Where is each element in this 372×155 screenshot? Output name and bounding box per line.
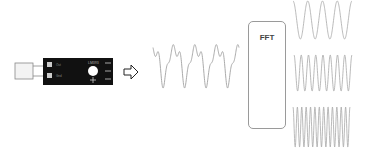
fft-block: FFT bbox=[248, 21, 286, 129]
mid-frequency-wave bbox=[294, 55, 352, 91]
svg-text:Out: Out bbox=[56, 63, 61, 67]
fft-label: FFT bbox=[249, 33, 285, 42]
svg-text:Gnd: Gnd bbox=[56, 74, 62, 78]
high-frequency-wave bbox=[293, 107, 350, 147]
sensor-board: Out Gnd LM393 bbox=[43, 58, 113, 85]
microphone-icon bbox=[15, 63, 46, 79]
composite-signal-wave bbox=[153, 45, 239, 88]
low-frequency-wave bbox=[293, 1, 352, 39]
diagram-canvas: Out Gnd LM393 bbox=[0, 0, 372, 155]
svg-text:LM393: LM393 bbox=[88, 61, 99, 65]
arrow-right-icon bbox=[124, 65, 138, 79]
